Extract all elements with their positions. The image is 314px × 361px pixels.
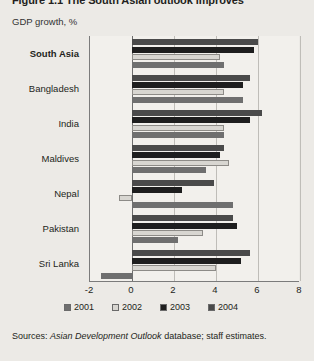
bar <box>132 54 220 60</box>
bar-group <box>90 106 299 141</box>
bar <box>132 132 224 138</box>
legend-item: 2001 <box>64 302 94 312</box>
category-label: Nepal <box>54 188 79 199</box>
bar <box>132 47 254 53</box>
bar-group <box>90 177 299 212</box>
sources-label: Sources: <box>12 331 48 341</box>
bar <box>132 39 258 45</box>
bar <box>132 125 224 131</box>
bar <box>132 117 250 123</box>
bar <box>132 75 250 81</box>
x-tick-label: 6 <box>254 284 259 295</box>
legend-item: 2002 <box>112 302 142 312</box>
category-label: Pakistan <box>43 223 79 234</box>
legend-label: 2004 <box>218 302 238 312</box>
bar <box>132 180 214 186</box>
legend-swatch <box>208 304 215 311</box>
bar <box>132 258 241 264</box>
bar <box>132 145 224 151</box>
bar <box>132 82 243 88</box>
legend: 2001200220032004 <box>64 302 314 316</box>
bar <box>101 273 133 279</box>
legend-label: 2001 <box>74 302 94 312</box>
bar <box>132 167 206 173</box>
bar <box>132 265 216 271</box>
legend-swatch <box>64 304 71 311</box>
sources-italic: Asian Development Outlook <box>50 331 162 341</box>
bar <box>119 195 132 201</box>
legend-label: 2003 <box>170 302 190 312</box>
x-tick-label: -2 <box>85 284 93 295</box>
x-tick-label: 4 <box>212 284 217 295</box>
legend-label: 2002 <box>122 302 142 312</box>
axis-title: GDP growth, % <box>12 16 77 27</box>
category-label: Sri Lanka <box>39 258 79 269</box>
bar <box>132 89 224 95</box>
bar-group <box>90 71 299 106</box>
plot-area <box>89 36 299 282</box>
bar <box>132 160 229 166</box>
bar <box>132 152 220 158</box>
bar <box>132 62 224 68</box>
x-axis-ticks: -202468 <box>89 284 300 298</box>
bar <box>132 230 203 236</box>
sources-rest: database; staff estimates. <box>164 331 266 341</box>
category-label: Bangladesh <box>29 83 79 94</box>
sources-note: Sources: Asian Development Outlook datab… <box>12 330 302 342</box>
category-label: South Asia <box>30 48 79 59</box>
x-tick-label: 2 <box>170 284 175 295</box>
bar-group <box>90 247 299 282</box>
legend-item: 2004 <box>208 302 238 312</box>
bar <box>132 223 237 229</box>
x-tick-label: 0 <box>128 284 133 295</box>
category-labels: South AsiaBangladeshIndiaMaldivesNepalPa… <box>0 36 85 282</box>
bar <box>132 250 250 256</box>
bar <box>132 187 182 193</box>
bar <box>132 202 233 208</box>
category-label: Maldives <box>42 153 80 164</box>
bar <box>132 97 243 103</box>
bar <box>132 110 262 116</box>
category-label: India <box>58 118 79 129</box>
figure-container: Figure 1.1 The South Asian outlook impro… <box>0 0 314 361</box>
figure-title: Figure 1.1 The South Asian outlook impro… <box>12 0 304 6</box>
bar-group <box>90 141 299 176</box>
bar <box>132 215 233 221</box>
bar-group <box>90 36 299 71</box>
legend-swatch <box>112 304 119 311</box>
bar-group <box>90 212 299 247</box>
gridline <box>300 36 301 281</box>
bar <box>132 237 178 243</box>
legend-swatch <box>160 304 167 311</box>
legend-item: 2003 <box>160 302 190 312</box>
x-tick-label: 8 <box>296 284 301 295</box>
